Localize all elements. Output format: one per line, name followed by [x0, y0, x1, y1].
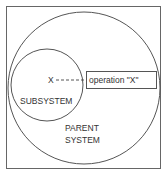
x-marker: X [48, 75, 54, 85]
subsystem-label: SUBSYSTEM [20, 96, 72, 106]
subsystem-circle [11, 49, 83, 121]
operation-label: operation "X" [89, 75, 139, 85]
parent-label-line1: PARENT [65, 123, 99, 133]
system-diagram: X operation "X" SUBSYSTEM PARENT SYSTEM [0, 0, 167, 176]
parent-label-line2: SYSTEM [65, 135, 100, 145]
